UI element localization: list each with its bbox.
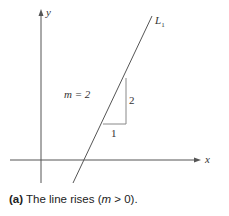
slope-diagram: y x L1 1 2 m = 2 (0, 0, 229, 216)
slope-annotation: m = 2 (64, 88, 91, 100)
y-axis-arrow-icon (39, 9, 44, 16)
caption-text-before: The line rises ( (23, 193, 101, 205)
run-label: 1 (111, 127, 117, 139)
line-label: L1 (154, 14, 165, 29)
x-axis-label: x (204, 153, 210, 165)
caption-text-after: > 0). (111, 193, 138, 205)
y-axis-label: y (45, 6, 51, 18)
figure-caption: (a) The line rises (m > 0). (9, 193, 138, 205)
x-axis-arrow-icon (194, 158, 201, 163)
x-axis: x (10, 153, 210, 165)
rise-label: 2 (129, 94, 135, 106)
caption-tag: (a) (9, 193, 23, 205)
caption-math: m (101, 193, 111, 205)
y-axis: y (39, 6, 52, 183)
